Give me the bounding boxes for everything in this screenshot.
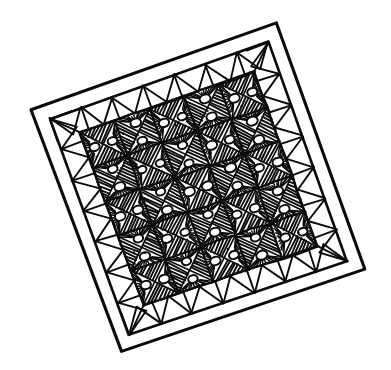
quilt-drawing-canvas: [0, 0, 391, 370]
quilt-illustration: Quilt: [0, 0, 391, 370]
